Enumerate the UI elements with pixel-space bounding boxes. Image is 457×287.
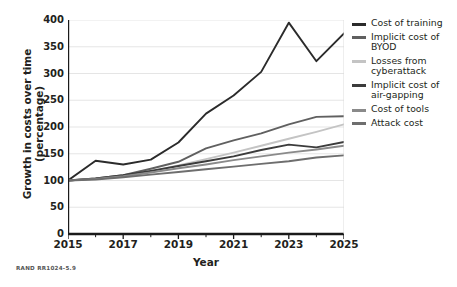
series-line-implicit-cost-of-byod (68, 116, 344, 180)
x-tick-label-2015: 2015 (53, 238, 82, 250)
legend-label-line: air-gapping (371, 90, 439, 100)
legend-label-cost-of-training: Cost of training (371, 18, 443, 28)
legend-label-line: Cost of training (371, 18, 443, 28)
figure: Growth in costs over time (percentage) 0… (0, 0, 457, 287)
y-tick-label-350: 350 (38, 41, 64, 52)
x-tick-label-2021: 2021 (219, 238, 248, 250)
legend-label-line: Cost of tools (371, 104, 429, 114)
x-tick-label-2017: 2017 (109, 238, 138, 250)
y-tick-label-300: 300 (38, 68, 64, 79)
source-caption: RAND RR1024-5.9 (16, 265, 76, 271)
legend-swatch-attack-cost (352, 122, 366, 125)
series-line-losses-from-cyberattack (68, 124, 344, 180)
y-tick-label-250: 250 (38, 94, 64, 105)
legend-swatch-implicit-cost-of-byod (352, 36, 366, 39)
legend-item-losses-from-cyberattack: Losses fromcyberattack (352, 56, 456, 77)
y-tick-label-50: 50 (38, 201, 64, 212)
legend-item-attack-cost: Attack cost (352, 118, 456, 128)
legend-label-line: BYOD (371, 42, 439, 52)
legend-label-attack-cost: Attack cost (371, 118, 423, 128)
y-axis-tick-labels: 050100150200250300350400 (38, 20, 64, 234)
legend-item-cost-of-training: Cost of training (352, 18, 456, 28)
legend-item-implicit-cost-of-air-gapping: Implicit cost ofair-gapping (352, 80, 456, 101)
y-tick-label-150: 150 (38, 148, 64, 159)
y-tick-label-400: 400 (38, 14, 64, 25)
legend-swatch-cost-of-training (352, 23, 366, 26)
legend-swatch-losses-from-cyberattack (352, 60, 366, 63)
legend-swatch-implicit-cost-of-air-gapping (352, 84, 366, 87)
legend-label-implicit-cost-of-air-gapping: Implicit cost ofair-gapping (371, 80, 439, 101)
y-axis-title-line-1: Growth in costs over time (21, 39, 33, 209)
line-chart-svg (68, 20, 344, 240)
legend-label-line: cyberattack (371, 66, 427, 76)
x-tick-label-2025: 2025 (329, 238, 358, 250)
legend-label-cost-of-tools: Cost of tools (371, 104, 429, 114)
y-tick-label-100: 100 (38, 175, 64, 186)
chart-legend: Cost of trainingImplicit cost ofBYODLoss… (352, 18, 456, 132)
x-axis-title: Year (68, 256, 344, 268)
legend-label-implicit-cost-of-byod: Implicit cost ofBYOD (371, 32, 439, 53)
legend-label-line: Attack cost (371, 118, 423, 128)
legend-swatch-cost-of-tools (352, 109, 366, 112)
y-tick-label-200: 200 (38, 121, 64, 132)
legend-label-losses-from-cyberattack: Losses fromcyberattack (371, 56, 427, 77)
x-tick-label-2019: 2019 (164, 238, 193, 250)
legend-item-cost-of-tools: Cost of tools (352, 104, 456, 114)
x-axis-tick-labels: 201520172019202120232025 (68, 238, 344, 254)
plot-area (68, 20, 344, 234)
x-tick-label-2023: 2023 (274, 238, 303, 250)
legend-item-implicit-cost-of-byod: Implicit cost ofBYOD (352, 32, 456, 53)
